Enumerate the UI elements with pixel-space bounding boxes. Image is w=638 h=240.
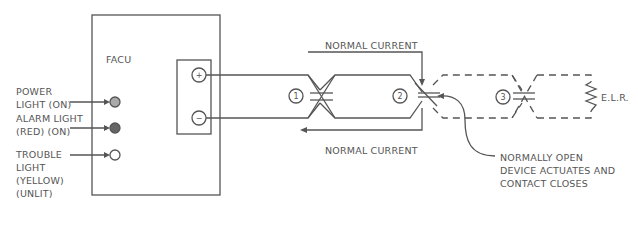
- callout-curve: [440, 96, 495, 156]
- alarm-light-label: ALARM LIGHT (RED) (ON): [16, 112, 83, 138]
- normal-current-bottom-arrow: [305, 108, 422, 130]
- svg-text:1: 1: [293, 92, 298, 101]
- facu-title: FACU: [106, 53, 131, 66]
- callout-text: NORMALLY OPEN DEVICE ACTUATES AND CONTAC…: [500, 151, 615, 190]
- normal-current-top-arrow: [308, 52, 422, 82]
- elr-resistor-icon: [586, 82, 596, 111]
- normal-current-bottom-label: NORMAL CURRENT: [325, 144, 418, 157]
- svg-text:−: −: [196, 114, 203, 123]
- trouble-light-icon: [110, 150, 120, 160]
- elr-label: E.L.R.: [601, 91, 629, 104]
- svg-text:2: 2: [397, 92, 402, 101]
- wire-positive: [206, 75, 320, 90]
- alarm-light-icon: [110, 123, 120, 133]
- power-light-icon: [110, 97, 120, 107]
- trouble-light-label: TROUBLE LIGHT (YELLOW) (UNLIT): [16, 148, 64, 200]
- svg-text:3: 3: [500, 93, 505, 102]
- svg-text:+: +: [196, 71, 203, 80]
- normal-current-top-label: NORMAL CURRENT: [325, 39, 418, 52]
- power-light-label: POWER LIGHT (ON): [16, 85, 71, 111]
